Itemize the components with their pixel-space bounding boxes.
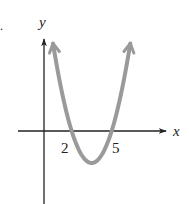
label-marker: . <box>0 19 3 33</box>
y-axis-label: y <box>37 14 46 30</box>
parabola-chart: . x y 2 5 <box>0 0 189 204</box>
x-axis-label: x <box>172 123 180 139</box>
tick-label-5: 5 <box>112 140 120 156</box>
tick-label-2: 2 <box>61 140 69 156</box>
